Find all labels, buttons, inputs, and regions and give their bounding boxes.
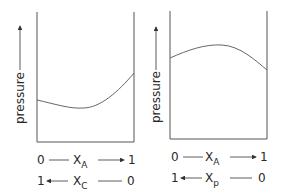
right-row2-end: 0 (258, 171, 266, 185)
right-row1-start: 0 (171, 150, 179, 164)
right-chart-frame (170, 11, 267, 139)
left-row1-var: XA (73, 153, 88, 170)
left-chart: pressure 0 XA 1 1 XC 0 (13, 12, 136, 191)
left-chart-frame (37, 12, 134, 142)
left-pressure-curve (37, 73, 134, 108)
right-row2-start: 1 (171, 171, 179, 185)
right-chart: pressure 0 XA 1 1 Xp 0 (149, 11, 268, 188)
left-row1-end: 1 (128, 153, 136, 167)
right-row2-var: Xp (205, 171, 219, 188)
diagram-canvas: pressure 0 XA 1 1 XC 0 pressure 0 XA 1 1… (0, 0, 282, 195)
left-row1-start: 0 (37, 153, 45, 167)
right-y-axis-label: pressure (149, 71, 163, 123)
left-row2-end: 0 (127, 174, 135, 188)
left-y-axis-label: pressure (13, 72, 27, 124)
left-row2-start: 1 (37, 174, 45, 188)
right-pressure-curve (170, 45, 267, 70)
left-row2-var: XC (73, 174, 88, 191)
right-row1-end: 1 (260, 150, 268, 164)
right-row1-var: XA (205, 150, 220, 167)
